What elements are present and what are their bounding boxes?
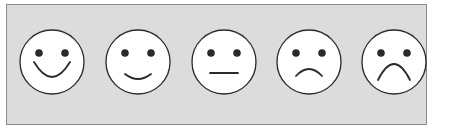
eye-icon: [292, 49, 300, 57]
face-sad-icon[interactable]: [277, 30, 341, 94]
face-outline: [106, 30, 170, 94]
face-outline: [277, 30, 341, 94]
face-very-sad-icon[interactable]: [362, 30, 426, 94]
face-happy-icon[interactable]: [106, 30, 170, 94]
eye-icon: [377, 49, 385, 57]
face-outline: [192, 30, 256, 94]
face-neutral-icon[interactable]: [192, 30, 256, 94]
face-very-happy-icon[interactable]: [20, 30, 84, 94]
eye-icon: [147, 49, 155, 57]
eye-icon: [403, 49, 411, 57]
eye-icon: [61, 49, 69, 57]
face-outline: [20, 30, 84, 94]
eye-icon: [121, 49, 129, 57]
eye-icon: [318, 49, 326, 57]
face-outline: [362, 30, 426, 94]
eye-icon: [35, 49, 43, 57]
eye-icon: [233, 49, 241, 57]
eye-icon: [207, 49, 215, 57]
smiley-scale: [0, 0, 450, 135]
